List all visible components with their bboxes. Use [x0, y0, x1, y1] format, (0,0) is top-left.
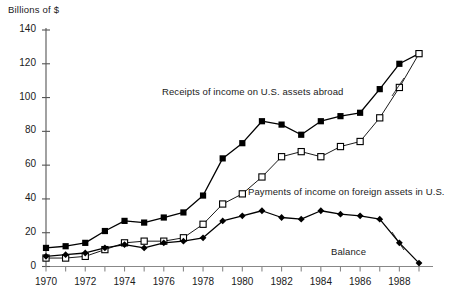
x-axis-tick-label: 1978	[183, 276, 223, 287]
data-point-marker	[396, 61, 402, 67]
y-axis-tick-label: 120	[6, 57, 36, 68]
data-point-marker	[259, 207, 266, 214]
data-point-marker	[317, 207, 324, 214]
data-point-marker	[180, 209, 186, 215]
data-point-marker	[298, 216, 305, 223]
data-point-marker	[357, 110, 363, 116]
data-point-marker	[200, 221, 206, 227]
data-point-marker	[278, 214, 285, 221]
data-point-marker	[377, 115, 383, 121]
series-receipts	[43, 51, 422, 251]
data-point-marker	[278, 122, 284, 128]
data-point-marker	[259, 118, 265, 124]
x-axis-tick-label: 1976	[144, 276, 184, 287]
data-point-marker	[416, 51, 422, 57]
chart-plot-area	[0, 0, 455, 308]
data-point-marker	[141, 219, 147, 225]
y-axis-tick-label: 140	[6, 23, 36, 34]
x-axis-tick-label: 1988	[379, 276, 419, 287]
annotation-leader	[392, 232, 404, 250]
x-axis-tick-label: 1986	[340, 276, 380, 287]
data-point-marker	[239, 191, 245, 197]
y-axis-tick-label: 80	[6, 124, 36, 135]
series-label-balance: Balance	[331, 246, 366, 257]
data-point-marker	[102, 228, 108, 234]
data-point-marker	[337, 211, 344, 218]
data-point-marker	[63, 243, 69, 249]
data-point-marker	[357, 138, 363, 144]
x-axis-tick-label: 1982	[262, 276, 302, 287]
x-axis-tick-label: 1970	[26, 276, 66, 287]
y-axis-tick-label: 60	[6, 158, 36, 169]
data-point-marker	[357, 212, 364, 219]
series-label-payments: Payments of income on foreign assets in …	[248, 186, 445, 197]
series-balance	[43, 207, 423, 266]
data-point-marker	[220, 155, 226, 161]
data-point-marker	[318, 118, 324, 124]
data-point-marker	[43, 245, 49, 251]
y-axis-tick-label: 20	[6, 226, 36, 237]
data-point-marker	[239, 212, 246, 219]
data-point-marker	[337, 143, 343, 149]
data-point-marker	[337, 113, 343, 119]
data-point-marker	[121, 218, 127, 224]
data-point-marker	[141, 245, 148, 252]
chart-container: Billions of $ 020406080100120140 1970197…	[0, 0, 455, 308]
y-axis-tick-label: 100	[6, 91, 36, 102]
axes-layer	[42, 28, 433, 272]
series-layer	[43, 51, 423, 267]
data-point-marker	[318, 154, 324, 160]
series-label-receipts: Receipts of income on U.S. assets abroad	[162, 86, 343, 97]
data-point-marker	[298, 149, 304, 155]
data-point-marker	[161, 214, 167, 220]
series-payments	[43, 51, 422, 262]
data-point-marker	[377, 86, 383, 92]
y-axis-tick-label: 40	[6, 192, 36, 203]
data-point-marker	[298, 132, 304, 138]
x-axis-tick-label: 1980	[222, 276, 262, 287]
x-axis-tick-label: 1972	[65, 276, 105, 287]
data-point-marker	[259, 174, 265, 180]
data-point-marker	[278, 154, 284, 160]
data-point-marker	[239, 140, 245, 146]
data-point-marker	[141, 238, 147, 244]
data-point-marker	[220, 201, 226, 207]
series-line	[46, 54, 419, 258]
x-axis-tick-label: 1984	[301, 276, 341, 287]
data-point-marker	[200, 192, 206, 198]
y-axis-tick-label: 0	[6, 260, 36, 271]
data-point-marker	[82, 240, 88, 246]
x-axis-tick-label: 1974	[105, 276, 145, 287]
